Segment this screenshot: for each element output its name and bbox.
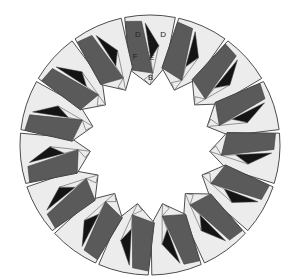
piece-label-c: C bbox=[148, 39, 154, 48]
dark-parallelogram-f bbox=[132, 215, 154, 271]
piece-label-d: D bbox=[160, 30, 166, 39]
piece-label-e: E bbox=[149, 53, 154, 62]
piece-label-f: F bbox=[133, 52, 138, 61]
piece-label-b: B bbox=[148, 73, 153, 82]
ring-svg: DCDFEB bbox=[0, 0, 290, 280]
tiled-ring-diagram: DCDFEB bbox=[0, 0, 290, 280]
piece-label-d: D bbox=[135, 30, 141, 39]
